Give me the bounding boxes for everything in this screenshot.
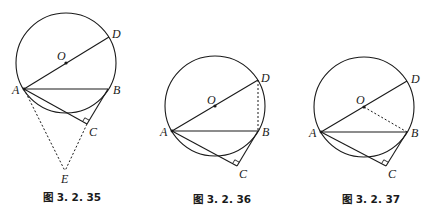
label-d: D [410, 72, 420, 86]
dotted-ae [24, 89, 65, 171]
label-c: C [388, 167, 397, 181]
label-b: B [113, 83, 121, 97]
label-b: B [411, 126, 419, 140]
caption: 图 3. 2. 35 [43, 191, 101, 203]
figure-3-2-37: O D A B C 图 3. 2. 37 [308, 57, 420, 205]
label-a: A [159, 125, 168, 139]
figure-3-2-36: O D A B C 图 3. 2. 36 [159, 56, 270, 205]
geometry-figures: O D A B C E 图 3. 2. 35 O D A B C 图 3. 2.… [0, 0, 428, 214]
segment-bc [237, 131, 258, 166]
segment-ac [321, 132, 386, 166]
figure-3-2-35: O D A B C E 图 3. 2. 35 [11, 13, 121, 203]
dotted-ob [364, 107, 407, 132]
dotted-ce [65, 124, 87, 171]
point-a [171, 130, 174, 133]
label-e: E [60, 172, 69, 186]
label-c: C [89, 125, 98, 139]
label-o: O [207, 93, 216, 107]
segment-ac [24, 89, 87, 124]
label-d: D [111, 27, 121, 41]
segment-ac [172, 131, 237, 166]
point-a [320, 131, 323, 134]
label-a: A [308, 126, 317, 140]
label-o: O [356, 93, 365, 107]
caption: 图 3. 2. 37 [342, 193, 400, 205]
label-a: A [11, 83, 20, 97]
point-a [23, 88, 26, 91]
label-b: B [262, 125, 270, 139]
caption: 图 3. 2. 36 [193, 193, 251, 205]
label-d: D [260, 71, 270, 85]
segment-bc [386, 132, 407, 166]
label-c: C [239, 167, 248, 181]
label-o: O [57, 49, 66, 63]
